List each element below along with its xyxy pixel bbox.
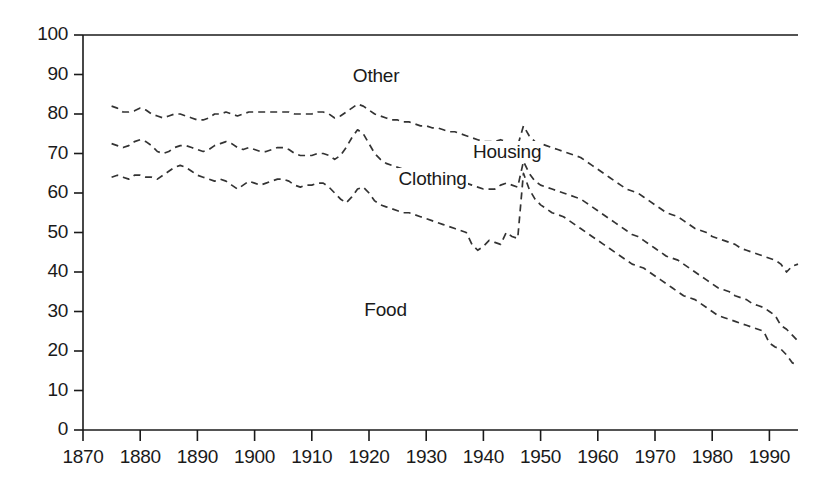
y-tick-label: 40 [22, 260, 68, 282]
x-tick-label: 1950 [513, 446, 569, 468]
x-tick-label: 1940 [455, 446, 511, 468]
x-tick-label: 1930 [398, 446, 454, 468]
series-label-clothing: Clothing [398, 168, 468, 190]
y-tick-label: 20 [22, 339, 68, 361]
y-tick-label: 30 [22, 300, 68, 322]
series-label-food: Food [363, 299, 408, 321]
chart-container: 0102030405060708090100187018801890190019… [0, 0, 818, 497]
x-tick-label: 1890 [169, 446, 225, 468]
x-tick-label: 1880 [112, 446, 168, 468]
y-tick-label: 80 [22, 102, 68, 124]
x-tick-label: 1990 [741, 446, 797, 468]
x-tick-label: 1960 [570, 446, 626, 468]
y-tick-label: 0 [22, 418, 68, 440]
series-line-housing [112, 130, 798, 341]
y-tick-label: 50 [22, 221, 68, 243]
x-tick-label: 1920 [341, 446, 397, 468]
y-tick-label: 60 [22, 181, 68, 203]
x-tick-label: 1900 [227, 446, 283, 468]
x-tick-label: 1870 [55, 446, 111, 468]
y-tick-label: 90 [22, 63, 68, 85]
chart-plot-area [0, 0, 818, 497]
x-tick-label: 1910 [284, 446, 340, 468]
x-tick-label: 1980 [684, 446, 740, 468]
series-label-other: Other [352, 65, 401, 87]
series-label-housing: Housing [472, 141, 542, 163]
series-line-clothing [112, 165, 798, 364]
x-tick-label: 1970 [627, 446, 683, 468]
y-tick-label: 100 [22, 23, 68, 45]
y-tick-label: 70 [22, 142, 68, 164]
y-tick-label: 10 [22, 379, 68, 401]
